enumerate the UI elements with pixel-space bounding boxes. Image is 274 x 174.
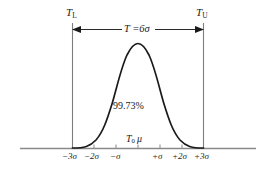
lower-limit-label: TL	[66, 7, 77, 19]
lower-limit-label-sub: L	[72, 11, 77, 20]
normal-distribution-figure: TL TU T =6σ 99.73% T0μ −3σ −2σ −σ +σ +2σ…	[0, 0, 274, 174]
percent-label: 99.73%	[113, 101, 144, 111]
tick-label-plus-3-sigma: +3σ	[194, 152, 209, 161]
tick-label-minus-1-sigma: −σ	[110, 152, 121, 161]
tick-label-minus-2-sigma: −2σ	[84, 152, 99, 161]
tick-label-plus-2-sigma: +2σ	[172, 152, 187, 161]
upper-limit-label: TU	[196, 7, 208, 19]
tick-label-minus-3-sigma: −3σ	[62, 152, 77, 161]
tick-label-plus-1-sigma: +σ	[152, 152, 163, 161]
upper-limit-label-sub: U	[202, 11, 207, 20]
span-label: T =6σ	[124, 24, 150, 35]
center-mu-symbol: μ	[137, 133, 142, 144]
center-label: T0μ	[126, 134, 142, 145]
center-label-sub: 0	[132, 137, 135, 144]
